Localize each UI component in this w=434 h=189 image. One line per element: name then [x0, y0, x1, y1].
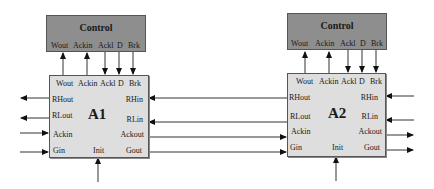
control-port-brk: Brk	[128, 41, 140, 50]
unit-port-ackl: Ackl	[341, 77, 357, 86]
control-title: Control	[288, 20, 386, 31]
unit-port-brk: Brk	[370, 77, 382, 86]
unit-port-ackin-left: Ackin	[291, 127, 311, 136]
unit-port-rhout: RHout	[289, 93, 310, 102]
unit-port-ackout: Ackout	[358, 127, 382, 136]
unit-box-a1: Wout Ackin Ackl D Brk RHout RLout Ackin …	[49, 75, 149, 158]
unit-name: A1	[88, 106, 106, 123]
unit-port-gout: Gout	[126, 146, 142, 155]
unit-port-brk: Brk	[129, 79, 141, 88]
unit-box-a2: Wout Ackin Ackl D Brk RHout RLout Ackin …	[287, 73, 386, 157]
unit-port-gin: Gin	[290, 143, 302, 152]
unit-port-rhout: RHout	[52, 95, 73, 104]
control-box-1: Control Wout Ackin Ackl D Brk	[46, 15, 146, 52]
unit-port-gin: Gin	[53, 146, 65, 155]
unit-port-init: Init	[93, 146, 104, 155]
unit-name: A2	[328, 105, 346, 122]
control-port-ackin: Ackin	[73, 41, 93, 50]
unit-port-rlin: RLin	[127, 115, 143, 124]
unit-port-ackout: Ackout	[120, 130, 144, 139]
unit-port-ackl: Ackl	[100, 79, 116, 88]
control-port-ackl: Ackl	[340, 39, 356, 48]
unit-port-init: Init	[332, 143, 343, 152]
control-port-brk: Brk	[371, 39, 383, 48]
unit-port-wout: Wout	[296, 77, 313, 86]
control-box-2: Control Wout Ackin Ackl D Brk	[287, 13, 387, 50]
control-title: Control	[47, 22, 145, 33]
unit-port-d: D	[118, 79, 124, 88]
control-port-d: D	[117, 41, 123, 50]
unit-port-ackin: Ackin	[78, 79, 98, 88]
control-port-d: D	[360, 39, 366, 48]
unit-port-d: D	[359, 77, 365, 86]
unit-port-rlout: RLout	[52, 111, 72, 120]
control-port-ackin: Ackin	[315, 39, 335, 48]
unit-port-wout: Wout	[56, 79, 73, 88]
unit-port-rhin: RHin	[361, 93, 378, 102]
unit-port-rlin: RLin	[362, 112, 378, 121]
control-port-ackl: Ackl	[98, 41, 114, 50]
unit-port-rhin: RHin	[126, 95, 143, 104]
unit-port-ackin-left: Ackin	[53, 130, 73, 139]
control-port-wout: Wout	[291, 39, 308, 48]
control-port-wout: Wout	[51, 41, 68, 50]
unit-port-ackin: Ackin	[319, 77, 339, 86]
unit-port-gout: Gout	[364, 143, 380, 152]
unit-port-rlout: RLout	[290, 112, 310, 121]
